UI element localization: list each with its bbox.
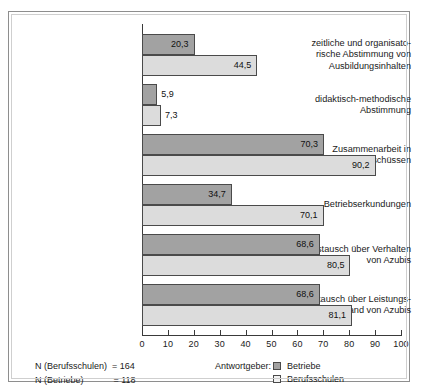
category-label-line: Abstimmung — [288, 105, 411, 116]
category-label-0: zeitliche und organisato-rische Abstimmu… — [288, 38, 411, 72]
legend-swatch-berufsschulen — [273, 375, 281, 383]
x-tick-10 — [168, 330, 169, 336]
category-label-line: zeitliche und organisato- — [288, 38, 411, 49]
x-tick-90 — [375, 330, 376, 336]
x-tick-30 — [220, 330, 221, 336]
x-tick-40 — [246, 330, 247, 336]
note-betriebe: N (Betriebe) = 118 — [35, 375, 136, 385]
x-tick-20 — [194, 330, 195, 336]
legend-label-betriebe: Betriebe — [287, 361, 321, 371]
x-tick-label-10: 10 — [155, 339, 181, 349]
x-tick-label-90: 90 — [362, 339, 388, 349]
note-berufsschulen: N (Berufsschulen) = 164 — [35, 361, 135, 371]
x-tick-label-60: 60 — [284, 339, 310, 349]
bar-betriebe-1 — [142, 84, 157, 105]
x-tick-label-20: 20 — [181, 339, 207, 349]
bar-value-label-betriebe-4: 68,6 — [142, 240, 314, 249]
bar-value-label-berufsschulen-5: 81,1 — [142, 311, 346, 320]
bar-value-label-berufsschulen-0: 44,5 — [142, 61, 251, 70]
bar-value-label-betriebe-3: 34,7 — [142, 190, 226, 199]
x-tick-label-100: 100 — [388, 339, 414, 349]
x-tick-80 — [349, 330, 350, 336]
bar-value-label-berufsschulen-1: 7,3 — [165, 111, 178, 120]
x-tick-label-40: 40 — [233, 339, 259, 349]
category-label-line: rische Abstimmung von — [288, 49, 411, 60]
chart-frame: 0102030405060708090100 zeitliche und org… — [8, 11, 410, 382]
x-tick-label-70: 70 — [310, 339, 336, 349]
category-label-line: didaktisch-methodische — [288, 94, 411, 105]
legend-swatch-betriebe — [273, 362, 281, 370]
x-tick-label-80: 80 — [336, 339, 362, 349]
bar-value-label-betriebe-1: 5,9 — [161, 90, 174, 99]
bar-value-label-berufsschulen-2: 90,2 — [142, 161, 370, 170]
bar-value-label-betriebe-0: 20,3 — [142, 40, 189, 49]
bar-value-label-betriebe-5: 68,6 — [142, 290, 314, 299]
x-tick-label-0: 0 — [129, 339, 155, 349]
x-tick-label-30: 30 — [207, 339, 233, 349]
chart-plot-area: 0102030405060708090100 zeitliche und org… — [9, 12, 411, 383]
x-tick-70 — [323, 330, 324, 336]
legend-title: Antwortgeber: — [215, 361, 271, 371]
bar-value-label-berufsschulen-3: 70,1 — [142, 211, 318, 220]
bar-value-label-betriebe-2: 70,3 — [142, 140, 318, 149]
bar-value-label-berufsschulen-4: 80,5 — [142, 261, 344, 270]
x-tick-label-50: 50 — [259, 339, 285, 349]
x-tick-100 — [401, 330, 402, 336]
category-label-line: Ausbildungsinhalten — [288, 61, 411, 72]
x-tick-0 — [142, 330, 143, 336]
bar-berufsschulen-1 — [142, 105, 161, 126]
category-label-1: didaktisch-methodischeAbstimmung — [288, 94, 411, 117]
legend-label-berufsschulen: Berufsschulen — [287, 374, 344, 384]
x-tick-60 — [297, 330, 298, 336]
x-tick-50 — [272, 330, 273, 336]
